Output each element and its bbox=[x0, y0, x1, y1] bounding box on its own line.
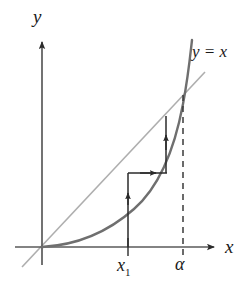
x1-label-base: x bbox=[117, 255, 125, 275]
x-axis-label: x bbox=[225, 236, 233, 258]
cobweb-diagram: y x y = x x1 α bbox=[0, 0, 250, 283]
function-curve bbox=[42, 40, 192, 247]
y-axis-label: y bbox=[33, 6, 41, 28]
x1-label-subscript: 1 bbox=[125, 266, 131, 278]
identity-line-y-equals-x bbox=[22, 72, 205, 267]
alpha-label: α bbox=[175, 254, 184, 275]
x1-label: x1 bbox=[117, 255, 131, 278]
identity-line-label: y = x bbox=[192, 42, 227, 62]
